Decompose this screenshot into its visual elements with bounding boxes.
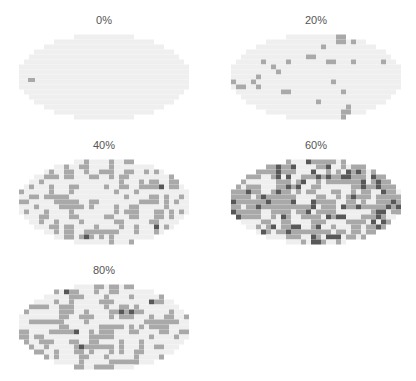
grid-cell: [149, 60, 154, 65]
grid-cell: [134, 175, 139, 180]
grid-cell: [69, 200, 74, 205]
grid-cell: [301, 65, 306, 70]
grid-cell: [326, 105, 331, 110]
grid-cell: [336, 105, 341, 110]
grid-cell: [64, 210, 69, 215]
grid-cell: [119, 355, 124, 360]
grid-cell: [179, 215, 184, 220]
grid-cell: [84, 215, 89, 220]
grid-cell: [256, 175, 261, 180]
grid-cell: [381, 225, 386, 230]
grid-cell: [351, 210, 356, 215]
grid-cell: [119, 365, 124, 370]
grid-cell: [261, 200, 266, 205]
grid-cell: [24, 65, 29, 70]
grid-cell: [89, 220, 94, 225]
grid-cell: [391, 80, 396, 85]
grid-cell: [114, 60, 119, 65]
grid-cell: [256, 200, 261, 205]
grid-cell: [149, 355, 154, 360]
grid-cell: [139, 330, 144, 335]
grid-cell: [39, 180, 44, 185]
grid-cell: [331, 45, 336, 50]
grid-cell: [59, 50, 64, 55]
grid-cell: [296, 80, 301, 85]
grid-cell: [241, 185, 246, 190]
grid-cell: [381, 180, 386, 185]
grid-cell: [34, 65, 39, 70]
grid-cell: [381, 195, 386, 200]
grid-cell: [179, 75, 184, 80]
grid-cell: [54, 45, 59, 50]
grid-cell: [376, 95, 381, 100]
grid-cell: [169, 205, 174, 210]
grid-cell: [261, 100, 266, 105]
grid-cell: [99, 170, 104, 175]
grid-cell: [366, 230, 371, 235]
grid-cell: [69, 50, 74, 55]
grid-cell: [109, 330, 114, 335]
grid-cell: [59, 110, 64, 115]
grid-cell: [94, 35, 99, 40]
grid-cell: [251, 225, 256, 230]
grid-cell: [94, 65, 99, 70]
grid-cell: [301, 180, 306, 185]
grid-cell: [24, 320, 29, 325]
grid-cell: [291, 80, 296, 85]
grid-cell: [99, 105, 104, 110]
grid-cell: [69, 170, 74, 175]
grid-cell: [154, 105, 159, 110]
grid-cell: [114, 290, 119, 295]
grid-cell: [311, 215, 316, 220]
grid-cell: [69, 175, 74, 180]
grid-cell: [169, 190, 174, 195]
grid-cell: [124, 305, 129, 310]
grid-cell: [356, 165, 361, 170]
grid-cell: [144, 290, 149, 295]
grid-cell: [129, 40, 134, 45]
grid-cell: [356, 210, 361, 215]
grid-cell: [266, 60, 271, 65]
grid-cell: [129, 170, 134, 175]
grid-cell: [54, 80, 59, 85]
grid-cell: [54, 345, 59, 350]
grid-cell: [336, 190, 341, 195]
grid-cell: [74, 110, 79, 115]
grid-cell: [129, 295, 134, 300]
grid-cell: [366, 45, 371, 50]
grid-cell: [119, 165, 124, 170]
grid-cell: [266, 70, 271, 75]
grid-cell: [256, 65, 261, 70]
grid-cell: [286, 110, 291, 115]
grid-cell: [39, 190, 44, 195]
grid-cell: [281, 40, 286, 45]
grid-cell: [134, 40, 139, 45]
grid-cell: [134, 350, 139, 355]
grid-cell: [326, 50, 331, 55]
grid-cell: [246, 90, 251, 95]
grid-cell: [261, 210, 266, 215]
grid-cell: [119, 285, 124, 290]
grid-cell: [89, 185, 94, 190]
grid-cell: [49, 180, 54, 185]
grid-cell: [54, 60, 59, 65]
panel-label: 60%: [216, 139, 416, 151]
grid-cell: [69, 80, 74, 85]
grid-cell: [306, 35, 311, 40]
grid-cell: [134, 60, 139, 65]
grid-cell: [291, 235, 296, 240]
grid-cell: [24, 195, 29, 200]
grid-cell: [29, 210, 34, 215]
grid-cell: [129, 115, 134, 120]
grid-cell: [119, 225, 124, 230]
grid-cell: [326, 220, 331, 225]
grid-cell: [306, 60, 311, 65]
grid-cell: [99, 345, 104, 350]
grid-cell: [134, 50, 139, 55]
grid-cell: [89, 310, 94, 315]
grid-cell: [94, 85, 99, 90]
grid-cell: [291, 90, 296, 95]
grid-cell: [321, 80, 326, 85]
grid-cell: [376, 80, 381, 85]
grid-cell: [119, 35, 124, 40]
